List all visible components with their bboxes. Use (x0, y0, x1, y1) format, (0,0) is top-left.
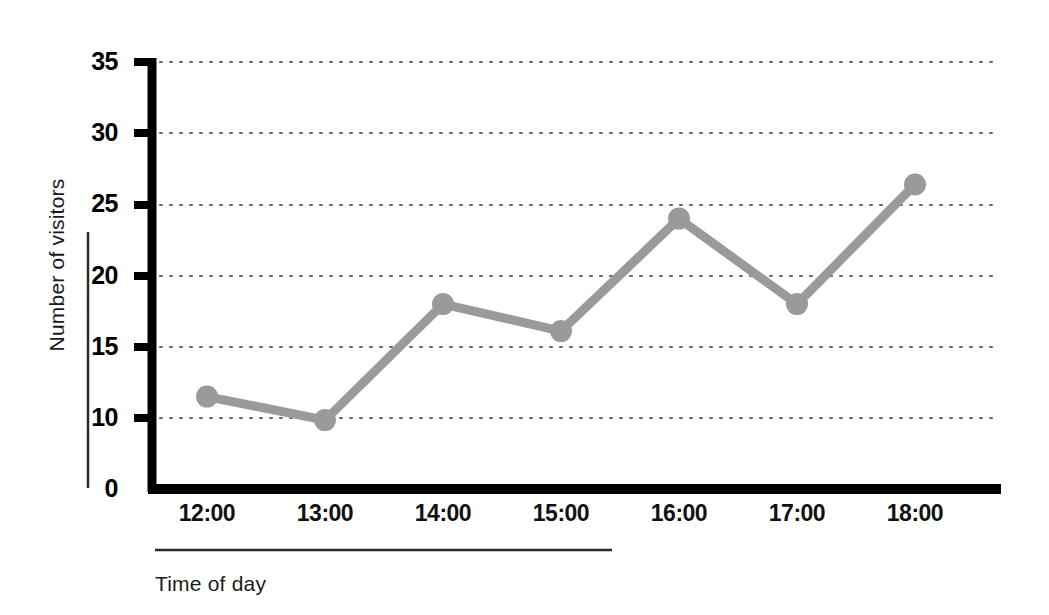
data-point-13-00 (314, 409, 336, 431)
y-tick-label-0: 0 (62, 474, 118, 503)
x-tick-label-17-00: 17:00 (742, 500, 852, 527)
data-point-18-00 (904, 174, 926, 196)
x-axis-title-text: Time of day (155, 572, 266, 596)
y-axis-title-text: Number of visitors (45, 179, 68, 352)
x-tick-label-14-00: 14:00 (388, 500, 498, 527)
x-tick-label-15-00: 15:00 (506, 500, 616, 527)
x-tick-label-12-00: 12:00 (152, 500, 262, 527)
y-tick-label-10: 10 (62, 403, 118, 432)
y-tick-label-30: 30 (62, 118, 118, 147)
y-tick-label-35: 35 (62, 47, 118, 76)
data-point-14-00 (432, 293, 454, 315)
visitors-line-chart: 0101520253035 12:0013:0014:0015:0016:001… (0, 0, 1049, 615)
y-axis-title: Number of visitors (45, 150, 85, 380)
data-point-17-00 (786, 293, 808, 315)
data-point-12-00 (196, 386, 218, 408)
x-tick-label-13-00: 13:00 (270, 500, 380, 527)
data-line-visitors (207, 185, 915, 421)
data-point-15-00 (550, 320, 572, 342)
x-tick-label-18-00: 18:00 (860, 500, 970, 527)
data-point-markers (196, 174, 926, 432)
x-tick-label-16-00: 16:00 (624, 500, 734, 527)
gridlines (160, 62, 1000, 418)
data-point-16-00 (668, 208, 690, 230)
